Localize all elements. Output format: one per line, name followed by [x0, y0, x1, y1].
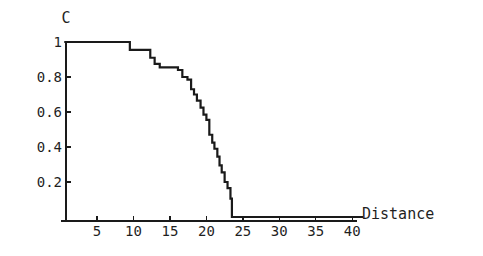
x-tick-label-20: 20 — [198, 223, 215, 239]
y-tick-label-0.8: 0.8 — [37, 69, 62, 85]
x-tick-label-30: 30 — [271, 223, 288, 239]
y-tick-label-0.6: 0.6 — [37, 104, 62, 120]
chart-figure: 0.20.40.60.81 510152025303540 C Distance — [0, 0, 483, 256]
x-axis-title: Distance — [362, 205, 434, 223]
x-tick-label-15: 15 — [162, 223, 179, 239]
step-curve-series — [64, 42, 363, 217]
x-tick-label-10: 10 — [125, 223, 142, 239]
y-tick-label-0.2: 0.2 — [37, 174, 62, 190]
x-tick-label-5: 5 — [93, 223, 101, 239]
x-tick-label-25: 25 — [234, 223, 251, 239]
x-tick-label-40: 40 — [344, 223, 361, 239]
y-tick-label-0.4: 0.4 — [37, 139, 62, 155]
y-tick-label-1: 1 — [54, 34, 62, 50]
y-axis-title: C — [61, 9, 70, 27]
x-tick-label-35: 35 — [307, 223, 324, 239]
